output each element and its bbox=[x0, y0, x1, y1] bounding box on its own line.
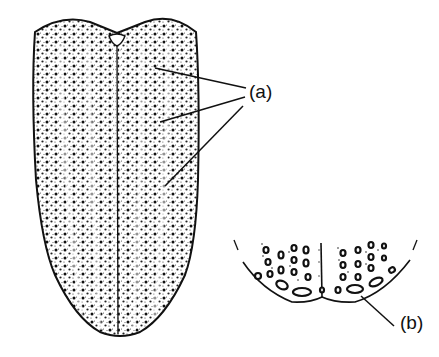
inset-punctures bbox=[255, 242, 396, 296]
elytra-diagram bbox=[0, 0, 439, 357]
apex-inset bbox=[234, 240, 417, 326]
inset-outline bbox=[243, 260, 410, 302]
leader-line-b bbox=[361, 296, 394, 326]
label-a: (a) bbox=[249, 82, 272, 101]
label-b: (b) bbox=[400, 313, 423, 332]
